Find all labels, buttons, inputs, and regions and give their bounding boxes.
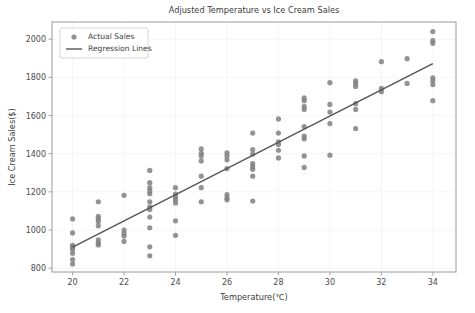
data-point (430, 29, 435, 34)
data-point (147, 253, 152, 258)
x-tick-label: 20 (67, 278, 77, 287)
chart-figure: Adjusted Temperature vs Ice Cream Sales2… (0, 0, 475, 313)
y-tick-label: 1600 (26, 112, 46, 121)
data-point (250, 130, 255, 135)
data-point (121, 239, 126, 244)
data-point (430, 98, 435, 103)
x-tick-label: 22 (119, 278, 129, 287)
data-point (199, 158, 204, 163)
plot-frame (52, 22, 456, 272)
y-axis-label: Ice Cream Sales($) (7, 108, 17, 185)
data-point (353, 126, 358, 131)
data-point (405, 81, 410, 86)
data-point (250, 147, 255, 152)
data-point (353, 84, 358, 89)
data-point (327, 80, 332, 85)
data-point (173, 218, 178, 223)
y-tick-label: 800 (31, 264, 46, 273)
data-point (276, 130, 281, 135)
data-point (147, 191, 152, 196)
x-tick-label: 24 (170, 278, 180, 287)
data-point (353, 107, 358, 112)
data-point (430, 82, 435, 87)
chart-title: Adjusted Temperature vs Ice Cream Sales (169, 5, 340, 15)
y-tick-label: 2000 (26, 35, 46, 44)
y-tick-label: 1400 (26, 150, 46, 159)
data-point (250, 174, 255, 179)
data-point (327, 153, 332, 158)
y-tick-label: 1200 (26, 188, 46, 197)
data-point (70, 230, 75, 235)
data-point (173, 185, 178, 190)
legend-marker-dot (71, 34, 76, 39)
data-point (147, 168, 152, 173)
data-point (224, 197, 229, 202)
data-point (224, 157, 229, 162)
scatter-series-actual-sales (70, 29, 435, 267)
x-axis-label: Temperature(℃) (219, 292, 287, 302)
data-point (70, 251, 75, 256)
data-point (121, 234, 126, 239)
x-tick-label: 28 (273, 278, 283, 287)
data-point (302, 98, 307, 103)
data-point (70, 261, 75, 266)
data-point (199, 153, 204, 158)
data-point (147, 199, 152, 204)
y-tick-label: 1000 (26, 226, 46, 235)
data-point (250, 198, 255, 203)
y-tick-label: 1800 (26, 73, 46, 82)
data-point (199, 185, 204, 190)
data-point (430, 41, 435, 46)
data-point (121, 193, 126, 198)
data-point (327, 109, 332, 114)
x-tick-label: 30 (325, 278, 335, 287)
data-point (147, 214, 152, 219)
x-tick-label: 26 (222, 278, 232, 287)
regression-line (73, 64, 433, 248)
scatter-chart: Adjusted Temperature vs Ice Cream Sales2… (0, 0, 475, 313)
data-point (199, 174, 204, 179)
legend-label: Regression Lines (88, 44, 152, 53)
data-point (96, 242, 101, 247)
legend-label: Actual Sales (88, 32, 134, 41)
data-point (379, 59, 384, 64)
data-point (147, 180, 152, 185)
data-point (173, 200, 178, 205)
data-point (405, 56, 410, 61)
data-point (302, 165, 307, 170)
data-point (147, 225, 152, 230)
x-tick-label: 32 (376, 278, 386, 287)
data-point (96, 223, 101, 228)
data-point (302, 107, 307, 112)
x-tick-label: 34 (428, 278, 438, 287)
data-point (199, 199, 204, 204)
data-point (70, 216, 75, 221)
data-point (327, 121, 332, 126)
data-point (276, 155, 281, 160)
data-point (327, 102, 332, 107)
data-point (302, 136, 307, 141)
data-point (250, 167, 255, 172)
data-point (96, 199, 101, 204)
data-point (276, 116, 281, 121)
data-point (302, 153, 307, 158)
data-point (173, 233, 178, 238)
data-point (147, 244, 152, 249)
data-point (276, 148, 281, 153)
